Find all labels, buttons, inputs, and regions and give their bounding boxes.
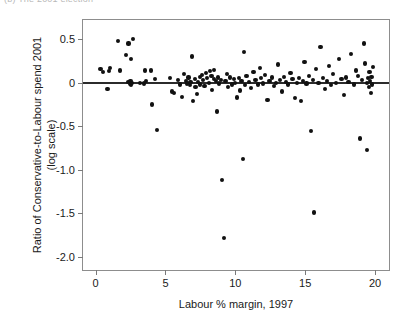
scatter-point [329, 83, 333, 87]
scatter-point [131, 37, 135, 41]
scatter-point [331, 72, 335, 76]
scatter-point [365, 148, 369, 152]
scatter-point [150, 102, 154, 106]
y-axis-tick-label: 0.5 [60, 34, 75, 45]
scatter-point [337, 57, 341, 61]
scatter-point [274, 81, 278, 85]
scatter-point [339, 77, 343, 81]
scatter-point [258, 66, 262, 70]
x-axis-tick [375, 270, 376, 275]
scatter-point [242, 50, 246, 54]
scatter-point [251, 70, 255, 74]
x-axis-tick-label: 5 [162, 278, 168, 289]
scatter-point [153, 77, 157, 81]
scatter-point [130, 81, 134, 85]
y-axis-tick [78, 39, 83, 40]
scatter-point [155, 128, 159, 132]
scatter-point [180, 95, 184, 99]
scatter-point [342, 93, 346, 97]
scatter-point [293, 96, 297, 100]
scatter-point [172, 91, 176, 95]
scatter-point [193, 85, 197, 89]
scatter-point [276, 62, 280, 66]
scatter-point [295, 81, 299, 85]
scatter-point [307, 74, 311, 78]
scatter-point [290, 77, 294, 81]
scatter-point [367, 70, 371, 74]
x-axis-tick [96, 270, 97, 275]
scatter-point [105, 87, 109, 91]
scatter-point [325, 79, 329, 83]
scatter-point [334, 81, 338, 85]
scatter-point [238, 88, 242, 92]
scatter-point [186, 75, 190, 79]
scatter-point [241, 157, 245, 161]
scatter-point [144, 79, 148, 83]
scatter-point [256, 82, 260, 86]
scatter-point [235, 95, 239, 99]
scatter-point [278, 78, 282, 82]
scatter-point [215, 109, 219, 113]
scatter-point [280, 89, 284, 93]
scatter-point [344, 75, 348, 79]
scatter-point [358, 136, 362, 140]
scatter-point [259, 76, 263, 80]
scatter-point [168, 76, 172, 80]
scatter-point [314, 67, 318, 71]
scatter-point [244, 74, 248, 78]
scatter-point [369, 91, 373, 95]
scatter-point [219, 78, 223, 82]
scatter-point [349, 52, 353, 56]
scatter-point [261, 81, 265, 85]
x-axis-title: Labour % margin, 1997 [82, 298, 390, 310]
scatter-point [282, 75, 286, 79]
scatter-point [302, 60, 306, 64]
scatter-point [265, 98, 269, 102]
x-axis-tick-label: 20 [369, 278, 381, 289]
scatter-point [270, 75, 274, 79]
scatter-point [288, 71, 292, 75]
scatter-point [318, 45, 322, 49]
scatter-point [129, 57, 133, 61]
scatter-point [286, 82, 290, 86]
scatter-point [247, 80, 251, 84]
scatter-point [346, 80, 350, 84]
scatter-point [118, 68, 122, 72]
scatter-point [352, 82, 356, 86]
scatter-point [202, 84, 206, 88]
scatter-point [220, 178, 224, 182]
y-axis-tick [78, 126, 83, 127]
scatter-point [311, 78, 315, 82]
scatter-point [356, 74, 360, 78]
y-axis-tick [78, 170, 83, 171]
scatter-point [249, 86, 253, 90]
scatter-point [207, 81, 211, 85]
scatter-point [362, 41, 366, 45]
scatter-point [191, 99, 195, 103]
scatter-point [369, 75, 373, 79]
x-axis-tick [165, 270, 166, 275]
scatter-point [212, 68, 216, 72]
y-axis-title: Ratio of Conservative-to-Labour spend 20… [30, 19, 60, 271]
scatter-point [222, 236, 226, 240]
scatter-point [149, 68, 153, 72]
y-axis-tick [78, 257, 83, 258]
scatter-point [143, 68, 147, 72]
scatter-point [188, 80, 192, 84]
x-axis-tick [305, 270, 306, 275]
scatter-point [299, 99, 303, 103]
scatter-point [360, 78, 364, 82]
scatter-point [354, 68, 358, 72]
scatter-point [312, 210, 316, 214]
scatter-point [116, 39, 120, 43]
scatter-point [304, 81, 308, 85]
scatter-point [370, 82, 374, 86]
scatter-point [101, 70, 105, 74]
y-axis-tick [78, 213, 83, 214]
y-axis-tick [78, 83, 83, 84]
scatter-point [327, 64, 331, 68]
scatter-point [190, 54, 194, 58]
scatter-point [323, 87, 327, 91]
y-axis-title-line1: Ratio of Conservative-to-Labour spend 20… [31, 37, 43, 253]
scatter-point [316, 81, 320, 85]
